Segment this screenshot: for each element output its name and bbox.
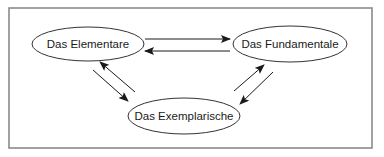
node-label: Das Fundamentale	[241, 38, 338, 50]
node-exemplarische: Das Exemplarische	[128, 98, 240, 134]
node-label: Das Exemplarische	[134, 110, 233, 122]
node-fundamentale: Das Fundamentale	[233, 26, 347, 62]
arrow-exemplarische-to-fundamentale	[234, 65, 264, 91]
diagram-canvas: Das ElementareDas FundamentaleDas Exempl…	[0, 0, 384, 157]
node-label: Das Elementare	[47, 38, 129, 50]
arrow-fundamentale-to-exemplarische	[240, 72, 273, 104]
node-group: Das ElementareDas FundamentaleDas Exempl…	[32, 26, 347, 134]
arrow-exemplarische-to-elementare	[100, 62, 135, 92]
arrow-elementare-to-exemplarische	[93, 70, 128, 101]
node-elementare: Das Elementare	[32, 27, 144, 61]
